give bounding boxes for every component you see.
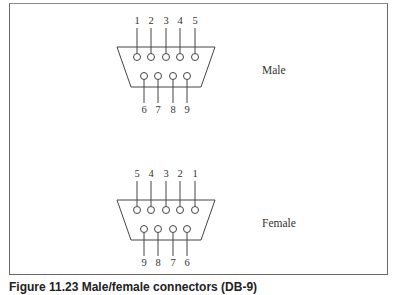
connector-diagram: 12345 6789 Male 54321 9876 Female xyxy=(0,0,398,295)
female-label: Female xyxy=(262,217,296,229)
male-pin-8: 8 xyxy=(170,73,177,116)
female-connector: 54321 9876 Female xyxy=(117,168,296,268)
pin-circle xyxy=(134,54,141,61)
pin-circle xyxy=(148,54,155,61)
pin-circle xyxy=(141,73,148,80)
female-pin-8: 8 xyxy=(155,226,162,269)
male-connector: 12345 6789 Male xyxy=(117,15,286,115)
male-pin-5: 5 xyxy=(192,15,199,61)
pin-number: 3 xyxy=(163,168,168,179)
pin-circle xyxy=(192,54,199,61)
pin-number: 1 xyxy=(192,168,197,179)
pin-number: 2 xyxy=(177,168,182,179)
pin-circle xyxy=(184,226,191,233)
female-pin-4: 4 xyxy=(148,168,155,214)
pin-number: 7 xyxy=(155,104,160,115)
female-pin-9: 9 xyxy=(141,226,148,269)
pin-number: 3 xyxy=(163,15,168,26)
female-pin-3: 3 xyxy=(163,168,170,214)
pin-circle xyxy=(155,226,162,233)
male-pin-9: 9 xyxy=(184,73,191,116)
pin-number: 6 xyxy=(184,257,189,268)
pin-circle xyxy=(155,73,162,80)
pin-number: 8 xyxy=(155,257,160,268)
pin-circle xyxy=(134,207,141,214)
male-label: Male xyxy=(262,64,286,76)
figure-caption: Figure 11.23 Male/female connectors (DB-… xyxy=(9,280,257,294)
pin-number: 7 xyxy=(170,257,175,268)
female-pin-7: 7 xyxy=(170,226,177,269)
pin-circle xyxy=(163,54,170,61)
pin-circle xyxy=(163,207,170,214)
male-pin-3: 3 xyxy=(163,15,170,61)
pin-circle xyxy=(177,207,184,214)
male-pin-2: 2 xyxy=(148,15,155,61)
female-pin-2: 2 xyxy=(177,168,184,214)
female-pin-1: 1 xyxy=(192,168,199,214)
pin-circle xyxy=(192,207,199,214)
pin-number: 4 xyxy=(148,168,154,179)
pin-circle xyxy=(148,207,155,214)
male-pin-6: 6 xyxy=(141,73,148,116)
pin-number: 9 xyxy=(184,104,189,115)
male-pin-1: 1 xyxy=(134,15,141,61)
pin-number: 8 xyxy=(170,104,175,115)
pin-number: 2 xyxy=(148,15,153,26)
pin-number: 4 xyxy=(177,15,183,26)
pin-circle xyxy=(177,54,184,61)
pin-circle xyxy=(141,226,148,233)
pin-number: 9 xyxy=(141,257,146,268)
male-pin-7: 7 xyxy=(155,73,162,116)
male-pin-4: 4 xyxy=(177,15,184,61)
pin-number: 5 xyxy=(134,168,139,179)
pin-number: 6 xyxy=(141,104,146,115)
pin-circle xyxy=(170,73,177,80)
pin-number: 5 xyxy=(192,15,197,26)
female-pin-6: 6 xyxy=(184,226,191,269)
pin-number: 1 xyxy=(134,15,139,26)
pin-circle xyxy=(184,73,191,80)
female-pin-5: 5 xyxy=(134,168,141,214)
pin-circle xyxy=(170,226,177,233)
